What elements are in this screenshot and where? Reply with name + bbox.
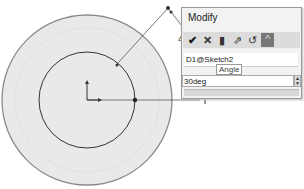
spinner-down-icon[interactable]: ▼ bbox=[295, 81, 300, 86]
value-spinner[interactable]: ▲ ▼ bbox=[294, 75, 301, 87]
reverse-sense-icon[interactable]: ↺ bbox=[246, 34, 258, 47]
leader-point-2 bbox=[170, 11, 173, 14]
leader-point[interactable] bbox=[166, 6, 170, 10]
modify-dialog: Modify ✔ ✕ ▮ ⇗ ↺ ^ D1@Sketch2 Angle 30de… bbox=[181, 7, 302, 99]
dialog-title: Modify bbox=[188, 12, 217, 23]
leader-line bbox=[168, 8, 182, 26]
angle-point[interactable] bbox=[116, 64, 119, 67]
ok-check-icon[interactable]: ✔ bbox=[186, 34, 198, 47]
reset-spin-icon[interactable]: ⇗ bbox=[231, 34, 243, 47]
value-input[interactable]: 30deg bbox=[182, 75, 294, 87]
modify-toolbar: ✔ ✕ ▮ ⇗ ↺ ^ bbox=[183, 32, 300, 48]
rebuild-icon[interactable]: ▮ bbox=[216, 34, 228, 47]
thumbwheel-slider[interactable] bbox=[184, 89, 299, 96]
mark-dimension-icon[interactable]: ^ bbox=[261, 33, 274, 47]
angle-tooltip: Angle bbox=[216, 64, 242, 75]
circle-point[interactable] bbox=[133, 98, 137, 102]
cancel-x-icon[interactable]: ✕ bbox=[201, 34, 213, 47]
